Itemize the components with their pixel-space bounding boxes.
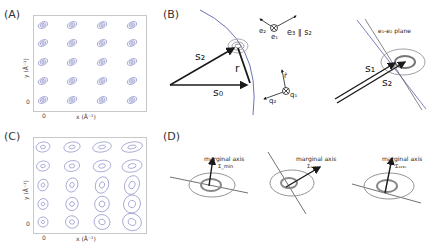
label-e1: e₁ [271,33,278,41]
label-e1-e2-plane: e₁-e₂ plane [378,27,411,34]
label-q2: q₂ [269,97,276,105]
label-r-hat: r̂ [284,72,287,80]
d3-caption: marginal axis [382,155,422,162]
panel-b-diagram [0,0,440,248]
marginal-axis-arrow-1 [209,158,213,186]
marginal-axis-arrow-3 [385,158,392,193]
label-e2: e₂ [259,27,266,35]
label-s2-right: s₂ [382,76,392,89]
d3-sigma: Σ₁₂₃ₙ [395,163,406,169]
d2-sigma: Σ₁₂₃ₙ [307,163,318,169]
d2-caption: marginal axis [296,155,336,162]
label-s0: s₀ [213,86,223,99]
label-e3-parallel-s2: e₃ ∥ s₂ [287,28,312,37]
label-q1: q₁ [290,91,297,99]
label-s1-right: s₁ [365,62,375,75]
d1-caption: marginal axis [204,155,244,162]
label-s2: s₂ [195,50,205,63]
label-r: r [235,62,240,75]
d1-sigma: Σ_min [218,163,233,169]
